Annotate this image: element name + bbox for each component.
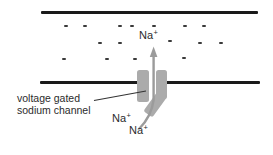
ion-charge-superscript: + <box>144 123 148 132</box>
minus-charge-icon <box>183 25 187 27</box>
channel-label-line1: voltage gated <box>17 93 91 105</box>
minus-charge-icon <box>98 42 102 44</box>
minus-charge-icon <box>152 25 156 27</box>
channel-left-subunit <box>137 70 149 102</box>
minus-charge-icon <box>118 42 122 44</box>
minus-charge-icon <box>168 40 172 42</box>
channel-label-line2: sodium channel <box>17 105 91 117</box>
sodium-ion-label-top: Na+ <box>139 29 157 43</box>
minus-charge-icon <box>64 25 68 27</box>
minus-charge-icon <box>118 25 122 27</box>
minus-charge-icon <box>62 58 66 60</box>
channel-label: voltage gated sodium channel <box>17 93 91 116</box>
minus-charge-icon <box>202 25 206 27</box>
ion-symbol: Na <box>129 124 143 136</box>
ion-charge-superscript: + <box>127 111 131 120</box>
ion-charge-superscript: + <box>154 28 158 37</box>
membrane-top-line <box>41 11 258 14</box>
ion-symbol: Na <box>112 112 126 124</box>
minus-charge-icon <box>105 58 109 60</box>
sodium-ion-label-bottom-1: Na+ <box>112 112 130 126</box>
minus-charge-icon <box>83 25 87 27</box>
minus-charge-icon <box>219 42 223 44</box>
minus-charge-icon <box>198 42 202 44</box>
ion-symbol: Na <box>139 29 153 41</box>
sodium-channel-diagram: Na+ Na+ Na+ voltage gated sodium channel <box>0 0 273 155</box>
minus-charge-icon <box>130 25 134 27</box>
sodium-ion-label-bottom-2: Na+ <box>129 124 147 138</box>
minus-charge-icon <box>133 58 137 60</box>
minus-charge-icon <box>182 57 186 59</box>
